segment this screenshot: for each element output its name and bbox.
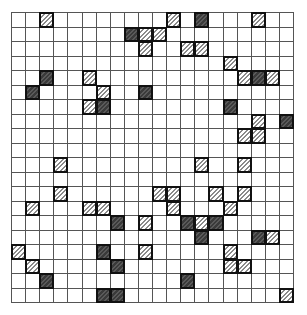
light-hatched-cell (237, 70, 252, 86)
empty-cell (224, 231, 238, 246)
empty-cell (125, 245, 139, 260)
empty-cell (280, 86, 294, 101)
empty-cell (26, 129, 40, 144)
empty-cell (26, 187, 40, 202)
empty-cell (181, 245, 195, 260)
empty-cell (125, 57, 139, 72)
empty-cell (83, 86, 97, 101)
empty-cell (111, 274, 125, 289)
empty-cell (153, 260, 167, 275)
empty-cell (97, 187, 111, 202)
light-hatched-cell (96, 201, 111, 217)
empty-cell (97, 274, 111, 289)
empty-cell (224, 115, 238, 130)
empty-cell (125, 115, 139, 130)
empty-cell (167, 289, 181, 304)
empty-cell (224, 187, 238, 202)
empty-cell (195, 260, 209, 275)
empty-cell (167, 158, 181, 173)
empty-cell (83, 42, 97, 57)
empty-cell (280, 187, 294, 202)
empty-cell (280, 216, 294, 231)
empty-cell (195, 245, 209, 260)
empty-cell (83, 173, 97, 188)
light-hatched-cell (138, 215, 153, 231)
empty-cell (181, 289, 195, 304)
light-hatched-cell (11, 244, 26, 260)
light-hatched-cell (223, 56, 238, 72)
dark-hatched-cell (208, 215, 223, 231)
empty-cell (68, 274, 82, 289)
empty-cell (181, 28, 195, 43)
empty-cell (111, 115, 125, 130)
empty-cell (280, 129, 294, 144)
empty-cell (40, 57, 54, 72)
empty-cell (238, 144, 252, 159)
dark-hatched-cell (96, 244, 111, 260)
empty-cell (167, 28, 181, 43)
empty-cell (12, 173, 26, 188)
empty-cell (181, 57, 195, 72)
light-hatched-cell (237, 259, 252, 275)
empty-cell (83, 129, 97, 144)
empty-cell (167, 144, 181, 159)
empty-cell (83, 274, 97, 289)
empty-cell (26, 245, 40, 260)
empty-cell (252, 57, 266, 72)
empty-cell (195, 173, 209, 188)
empty-cell (83, 216, 97, 231)
light-hatched-cell (138, 41, 153, 57)
empty-cell (153, 216, 167, 231)
empty-cell (12, 13, 26, 28)
empty-cell (266, 216, 280, 231)
empty-cell (139, 202, 153, 217)
empty-cell (68, 187, 82, 202)
empty-cell (209, 245, 223, 260)
light-hatched-cell (194, 157, 209, 173)
empty-cell (195, 187, 209, 202)
empty-cell (111, 42, 125, 57)
empty-cell (68, 13, 82, 28)
empty-cell (195, 115, 209, 130)
dark-hatched-cell (180, 273, 195, 289)
light-hatched-cell (237, 157, 252, 173)
empty-cell (209, 100, 223, 115)
empty-cell (252, 274, 266, 289)
empty-cell (224, 289, 238, 304)
empty-cell (12, 158, 26, 173)
empty-cell (125, 289, 139, 304)
light-hatched-cell (251, 128, 266, 144)
light-hatched-cell (194, 41, 209, 57)
empty-cell (181, 100, 195, 115)
empty-cell (238, 42, 252, 57)
light-hatched-cell (25, 259, 40, 275)
empty-cell (125, 216, 139, 231)
empty-cell (266, 245, 280, 260)
empty-cell (209, 289, 223, 304)
empty-cell (125, 13, 139, 28)
light-hatched-cell (237, 186, 252, 202)
light-hatched-cell (265, 230, 280, 246)
empty-cell (181, 13, 195, 28)
empty-cell (209, 86, 223, 101)
dark-hatched-cell (96, 99, 111, 115)
light-hatched-cell (138, 27, 153, 43)
empty-cell (252, 100, 266, 115)
empty-cell (26, 71, 40, 86)
empty-cell (26, 173, 40, 188)
empty-cell (238, 28, 252, 43)
empty-cell (83, 57, 97, 72)
empty-cell (125, 187, 139, 202)
dark-hatched-cell (96, 288, 111, 304)
empty-cell (167, 274, 181, 289)
empty-cell (238, 100, 252, 115)
dark-hatched-cell (110, 259, 125, 275)
empty-cell (280, 245, 294, 260)
empty-cell (26, 42, 40, 57)
empty-cell (139, 158, 153, 173)
empty-cell (26, 100, 40, 115)
empty-cell (40, 42, 54, 57)
empty-cell (54, 71, 68, 86)
empty-cell (252, 28, 266, 43)
empty-cell (40, 100, 54, 115)
